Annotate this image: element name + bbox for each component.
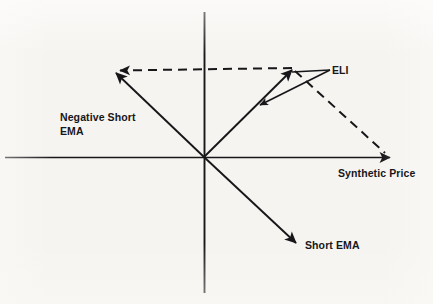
label-eli: ELI [332,63,349,77]
parallelogram-right-dashed-line [295,71,385,153]
eli-resultant-vector [204,70,292,157]
eli-leader-line-to-lower-point [260,70,330,105]
figure-canvas: Negative ShortEMA ELI Synthetic Price Sh… [0,0,433,304]
label-short-ema: Short EMA [305,238,360,252]
short-ema-vector [204,157,296,243]
vector-diagram-svg [0,0,433,304]
eli-leader-line-to-apex [292,70,330,72]
label-negative-short-ema-line1: Negative Short [60,111,136,123]
label-negative-short-ema: Negative ShortEMA [60,110,136,138]
label-negative-short-ema-line2: EMA [60,125,84,137]
label-synthetic-price: Synthetic Price [338,166,415,180]
parallelogram-top-dashed-line [120,68,292,71]
